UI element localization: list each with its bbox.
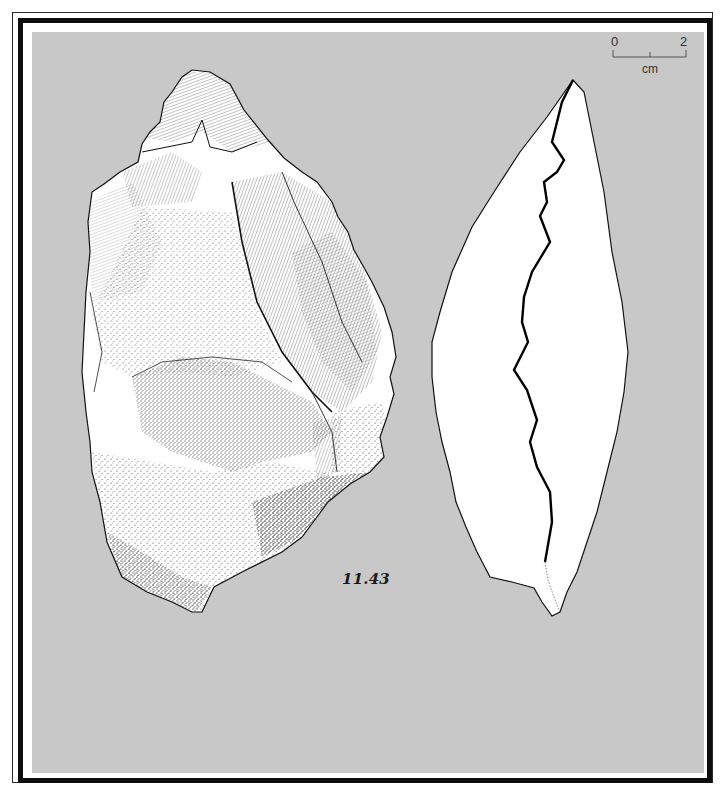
scale-bar-labels: 0 2 cm	[608, 32, 704, 77]
catalog-number: 11.43	[342, 570, 390, 588]
dorsal-view-drawing	[82, 70, 396, 612]
scale-start-label: 0	[611, 35, 618, 48]
illustration-plate: 0 2 cm 11.43	[32, 32, 704, 773]
scale-end-label: 2	[680, 35, 687, 48]
profile-view-drawing	[432, 80, 628, 616]
scale-unit-label: cm	[642, 63, 658, 75]
